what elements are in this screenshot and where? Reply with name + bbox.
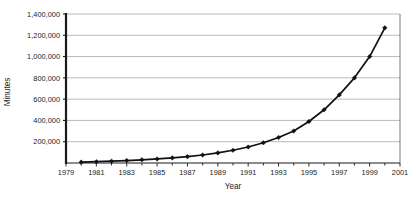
data-point-marker: [246, 145, 251, 150]
y-tick-label: 200,000: [33, 137, 60, 146]
x-tick-label: 1999: [361, 168, 377, 177]
y-axis-title: Minutes: [3, 78, 12, 107]
x-tick-label: 2001: [392, 168, 408, 177]
data-point-marker: [276, 135, 281, 140]
data-point-marker: [231, 148, 236, 153]
data-point-marker: [261, 140, 266, 145]
y-tick-label: 400,000: [33, 116, 60, 125]
x-tick-label: 1979: [58, 168, 74, 177]
y-tick-label: 1,200,000: [27, 31, 60, 40]
data-point-marker: [140, 158, 145, 163]
x-tick-label: 1987: [179, 168, 195, 177]
y-tick-label: 600,000: [33, 95, 60, 104]
data-point-marker: [216, 151, 221, 156]
x-tick-label: 1991: [240, 168, 256, 177]
data-point-marker: [124, 158, 129, 163]
data-point-marker: [185, 154, 190, 159]
chart-container: 200,000400,000600,000800,0001,000,0001,2…: [0, 0, 420, 200]
series-markers-minutes: [79, 26, 387, 165]
data-point-marker: [170, 156, 175, 161]
y-tick-label: 800,000: [33, 74, 60, 83]
data-point-marker: [155, 157, 160, 162]
data-point-marker: [200, 153, 205, 158]
line-chart: 200,000400,000600,000800,0001,000,0001,2…: [0, 0, 420, 200]
x-tick-label: 1989: [210, 168, 226, 177]
x-tick-label: 1995: [301, 168, 317, 177]
y-axis-tick-labels: 200,000400,000600,000800,0001,000,0001,2…: [27, 10, 60, 147]
y-tick-label: 1,000,000: [27, 52, 60, 61]
data-point-marker: [79, 160, 84, 165]
y-tick-label: 1,400,000: [27, 10, 60, 19]
x-tick-label: 1997: [331, 168, 347, 177]
x-axis-title: Year: [225, 182, 242, 191]
x-axis-tick-labels: 1979198119831985198719891991199319951997…: [58, 168, 408, 177]
x-tick-label: 1981: [88, 168, 104, 177]
x-tick-label: 1993: [270, 168, 286, 177]
gridlines: [66, 14, 400, 142]
x-tick-label: 1983: [119, 168, 135, 177]
x-tick-label: 1985: [149, 168, 165, 177]
